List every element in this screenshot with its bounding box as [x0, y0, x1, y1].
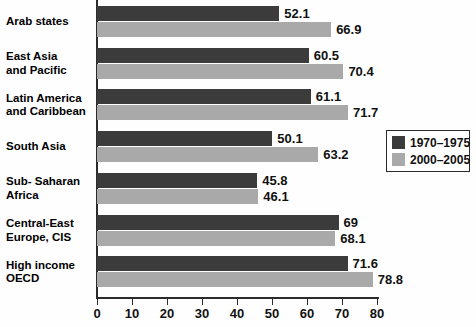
bar [97, 48, 309, 63]
legend: 1970–1975 2000–2005 [386, 130, 470, 172]
category-label-line: and Caribbean [6, 105, 94, 119]
x-axis-tick [272, 299, 273, 305]
bar [97, 231, 335, 246]
bar [97, 89, 311, 104]
category-label: Sub- SaharanAfrica [6, 175, 94, 202]
category-label: South Asia [6, 140, 94, 154]
bar [97, 105, 348, 120]
category-label-line: OECD [6, 272, 94, 286]
category-label: Arab states [6, 15, 94, 29]
bar-value-label: 78.8 [378, 272, 403, 287]
category-label-line: High income [6, 259, 94, 273]
x-axis-tick [377, 299, 378, 305]
category-label-line: East Asia [6, 50, 94, 64]
legend-item-period-b: 2000–2005 [392, 152, 465, 167]
bar [97, 256, 348, 271]
category-label: Latin Americaand Caribbean [6, 92, 94, 119]
legend-label-period-b: 2000–2005 [410, 153, 470, 167]
x-axis-tick [342, 299, 343, 305]
bar [97, 272, 373, 287]
bar [97, 22, 331, 37]
category-label-line: and Pacific [6, 64, 94, 78]
bar-chart: Arab statesEast Asiaand PacificLatin Ame… [0, 0, 476, 327]
x-axis-tick [237, 299, 238, 305]
x-axis-tick-label: 20 [160, 306, 174, 321]
x-axis-tick-label: 60 [300, 306, 314, 321]
x-axis-tick-label: 0 [93, 306, 100, 321]
legend-swatch-icon-period-a [392, 136, 405, 149]
bar [97, 189, 258, 204]
bar-value-label: 68.1 [340, 231, 365, 246]
category-label-line: Latin America [6, 92, 94, 106]
bar-value-label: 69 [344, 215, 358, 230]
category-label-line: Arab states [6, 15, 94, 29]
bar-value-label: 50.1 [277, 131, 302, 146]
bar-value-label: 71.7 [353, 105, 378, 120]
bar [97, 215, 339, 230]
x-axis-tick [307, 299, 308, 305]
category-label-line: Europe, CIS [6, 231, 94, 245]
x-axis-tick-label: 80 [370, 306, 384, 321]
x-axis-tick [97, 299, 98, 305]
category-label-line: South Asia [6, 140, 94, 154]
category-label-line: Sub- Saharan [6, 175, 94, 189]
bar-value-label: 66.9 [336, 22, 361, 37]
x-axis-tick-label: 50 [265, 306, 279, 321]
bar-value-label: 71.6 [353, 256, 378, 271]
category-label: High incomeOECD [6, 259, 94, 286]
bar-value-label: 45.8 [262, 173, 287, 188]
x-axis-tick-label: 10 [125, 306, 139, 321]
bar-value-label: 70.4 [348, 64, 373, 79]
x-axis-tick [167, 299, 168, 305]
bar [97, 173, 257, 188]
bar-value-label: 46.1 [263, 189, 288, 204]
bar-value-label: 60.5 [314, 48, 339, 63]
bar [97, 64, 343, 79]
bar [97, 6, 279, 21]
bar [97, 131, 272, 146]
legend-label-period-a: 1970–1975 [410, 136, 470, 150]
x-axis-tick-label: 40 [230, 306, 244, 321]
category-label-line: Africa [6, 189, 94, 203]
bar-value-label: 61.1 [316, 89, 341, 104]
bar-value-label: 52.1 [284, 6, 309, 21]
legend-item-period-a: 1970–1975 [392, 135, 465, 150]
legend-swatch-icon-period-b [392, 153, 405, 166]
x-axis-tick-label: 30 [195, 306, 209, 321]
category-label: East Asiaand Pacific [6, 50, 94, 77]
x-axis-tick [202, 299, 203, 305]
category-label: Central-EastEurope, CIS [6, 217, 94, 244]
bar-value-label: 63.2 [323, 147, 348, 162]
x-axis-tick [132, 299, 133, 305]
bar [97, 147, 318, 162]
category-label-line: Central-East [6, 217, 94, 231]
x-axis-tick-label: 70 [335, 306, 349, 321]
